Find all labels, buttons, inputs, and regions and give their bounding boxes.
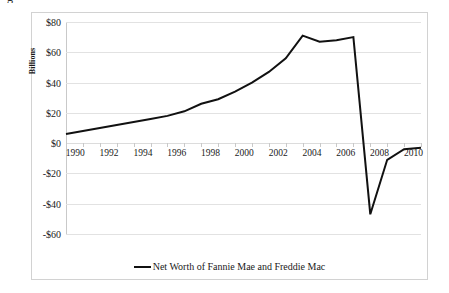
plot-area: $80$60$40$20$0-$20-$40-$60 1990199219941… bbox=[66, 22, 421, 234]
y-tick-label-80: $80 bbox=[46, 17, 61, 28]
y-tick-label-20: $20 bbox=[46, 107, 61, 118]
legend-label: Net Worth of Fannie Mae and Freddie Mac bbox=[153, 261, 326, 272]
y-tick-label-0: $0 bbox=[51, 138, 61, 149]
y-tick-label--20: -$20 bbox=[43, 168, 61, 179]
y-tick-label-40: $40 bbox=[46, 77, 61, 88]
gridline--60 bbox=[66, 234, 421, 235]
series-line-net-worth bbox=[66, 22, 421, 234]
y-axis-title: Billions bbox=[28, 31, 42, 91]
series-path-0 bbox=[66, 36, 421, 215]
y-tick-label--40: -$40 bbox=[43, 198, 61, 209]
x-tick-mark-2011 bbox=[421, 143, 422, 147]
y-tick-label-60: $60 bbox=[46, 47, 61, 58]
chart-frame: Billions $80$60$40$20$0-$20-$40-$60 1990… bbox=[31, 12, 428, 280]
legend: Net Worth of Fannie Mae and Freddie Mac bbox=[32, 261, 427, 272]
legend-line-swatch bbox=[134, 266, 151, 268]
caption-fragment: g bbox=[7, 0, 21, 3]
y-tick-label--60: -$60 bbox=[43, 229, 61, 240]
